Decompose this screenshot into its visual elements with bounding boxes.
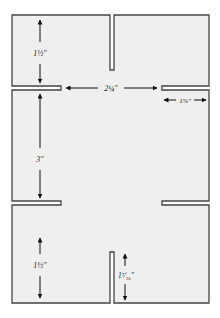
label-side-slot-length: 1⅞" <box>179 97 191 105</box>
slotted-template-diagram: 1½" 2¼" 1⅞" 3" 1½" 1⁷⁄₁₆" <box>0 0 220 318</box>
label-middle-panel-height: 3" <box>35 155 44 164</box>
label-bottom-panel-height: 1½" <box>33 261 47 270</box>
label-bottom-slot-length: 1⁷⁄₁₆" <box>118 271 135 280</box>
label-slot-gap-width: 2¼" <box>104 84 118 93</box>
label-top-panel-height: 1½" <box>33 49 47 58</box>
